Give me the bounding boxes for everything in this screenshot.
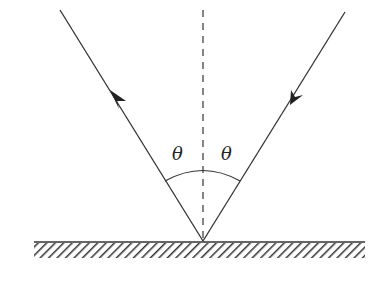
reflected-ray <box>60 10 203 241</box>
arrow-up-left-icon <box>110 90 126 109</box>
reflection-diagram: θ θ <box>0 0 387 297</box>
angle-label-right: θ <box>221 143 232 164</box>
incident-ray <box>203 12 345 241</box>
arrow-down-left-icon <box>290 90 303 105</box>
angle-label-left: θ <box>172 143 183 164</box>
reflecting-surface <box>34 242 365 258</box>
